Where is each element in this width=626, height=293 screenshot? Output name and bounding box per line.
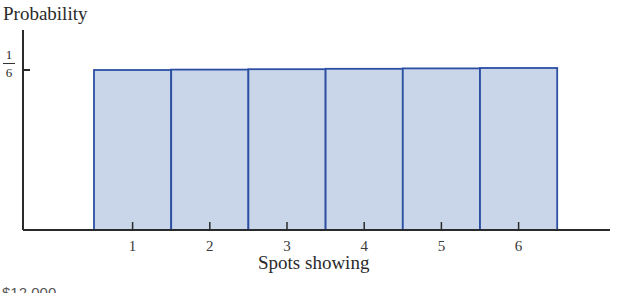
- x-tick-label: 2: [206, 238, 214, 254]
- bar-6: [480, 68, 557, 230]
- bar-3: [248, 69, 325, 230]
- x-tick-label: 6: [515, 238, 523, 254]
- bar-4: [326, 69, 403, 230]
- chart-plot: 123456: [0, 0, 626, 293]
- bar-5: [403, 68, 480, 230]
- bar-2: [171, 70, 248, 230]
- cropped-text: $12,000: [2, 282, 56, 293]
- x-tick-label: 1: [129, 238, 137, 254]
- x-tick-label: 5: [438, 238, 446, 254]
- bars-group: [94, 68, 557, 230]
- bar-1: [94, 70, 171, 230]
- x-axis-label: Spots showing: [258, 252, 369, 274]
